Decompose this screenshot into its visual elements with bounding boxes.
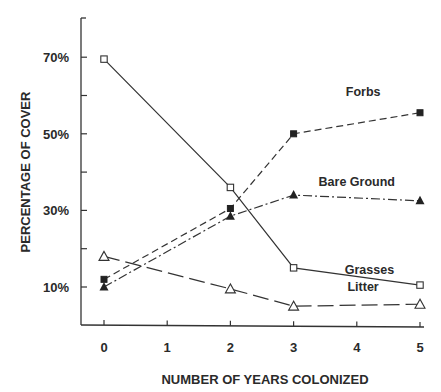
filled-square-marker-icon — [291, 131, 297, 137]
open-triangle-marker-icon — [99, 251, 109, 260]
x-tick-label: 5 — [416, 340, 423, 355]
filled-triangle-marker-icon — [416, 196, 425, 205]
x-tick-label: 1 — [164, 340, 171, 355]
open-square-marker-icon — [101, 56, 107, 62]
labels-group: GrassesForbsBare GroundLitter — [319, 85, 395, 294]
open-square-marker-icon — [417, 282, 423, 288]
series-label-litter: Litter — [347, 280, 378, 294]
x-axis-title: NUMBER OF YEARS COLONIZED — [161, 372, 368, 387]
x-tick-label: 3 — [290, 340, 297, 355]
chart-canvas: 70%50%30%10%012345NUMBER OF YEARS COLONI… — [0, 0, 441, 392]
filled-square-marker-icon — [101, 276, 107, 282]
filled-square-marker-icon — [227, 205, 233, 211]
x-tick-label: 4 — [353, 340, 361, 355]
y-tick-label: 50% — [43, 127, 69, 142]
series-label-forbs: Forbs — [346, 85, 381, 99]
open-triangle-marker-icon — [225, 284, 235, 293]
y-tick-label: 30% — [43, 203, 69, 218]
series-label-grasses: Grasses — [345, 263, 394, 277]
y-tick-label: 10% — [43, 280, 69, 295]
line-chart: 70%50%30%10%012345NUMBER OF YEARS COLONI… — [0, 0, 441, 392]
filled-triangle-marker-icon — [289, 190, 298, 199]
open-square-marker-icon — [290, 265, 296, 271]
x-tick-label: 0 — [100, 340, 107, 355]
x-axis-line — [81, 325, 424, 327]
axes: 70%50%30%10%012345NUMBER OF YEARS COLONI… — [18, 18, 424, 387]
y-tick-label: 70% — [43, 50, 69, 65]
filled-triangle-marker-icon — [100, 282, 109, 291]
open-square-marker-icon — [227, 184, 233, 190]
x-tick-label: 2 — [227, 340, 234, 355]
y-axis-title: PERCENTAGE OF COVER — [18, 91, 33, 252]
series-label-bare-ground: Bare Ground — [319, 175, 395, 189]
filled-square-marker-icon — [417, 110, 423, 116]
series-line-forbs — [104, 113, 420, 280]
